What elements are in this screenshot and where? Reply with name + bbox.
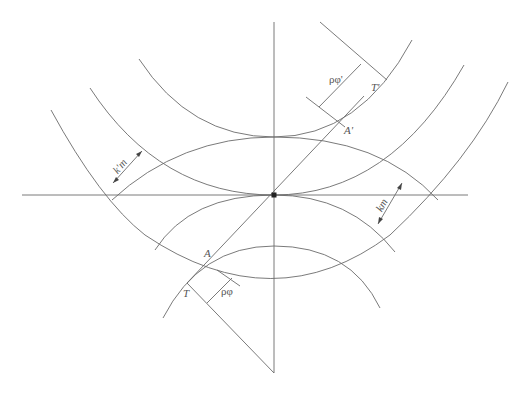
arc-upper-middle — [90, 65, 464, 195]
tangent-lower-2 — [217, 270, 240, 286]
arc-lower-middle — [155, 195, 395, 252]
arrowhead — [378, 217, 383, 224]
tangent-upper-2 — [306, 97, 345, 127]
label-T-lower: T — [183, 287, 189, 299]
center-point — [272, 193, 277, 198]
label-T-upper: T' — [371, 81, 379, 93]
label-A-upper: A' — [344, 124, 353, 136]
arrowhead — [397, 183, 402, 190]
diagonal-line — [187, 96, 364, 283]
arc-upper-outer — [51, 82, 508, 279]
label-rho-phi-lower: ρφ — [221, 285, 233, 297]
diagram-canvas: T' A' ρφ' k'm km A T ρφ — [0, 0, 522, 393]
geometry-svg — [0, 0, 522, 393]
rho-phi-upper-dim — [319, 64, 361, 107]
label-A-lower: A — [204, 247, 211, 259]
arc-bottom — [163, 246, 380, 318]
label-rho-phi-upper: ρφ' — [329, 73, 343, 85]
